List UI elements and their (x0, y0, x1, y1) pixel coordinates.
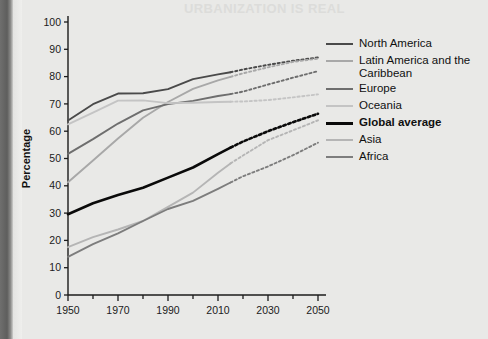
chart-legend: North AmericaLatin America and the Carib… (325, 36, 485, 166)
y-tick-label: 60 (49, 125, 61, 137)
x-tick-label: 1970 (106, 304, 130, 316)
x-tick-label: 2030 (256, 304, 280, 316)
legend-line-swatch-icon (325, 81, 353, 97)
legend-item: Africa (325, 149, 485, 165)
axis-layer (64, 16, 326, 301)
y-tick-label: 50 (49, 152, 61, 164)
legend-item: North America (325, 36, 485, 52)
legend-line-swatch-icon (325, 53, 353, 69)
legend-item: Asia (325, 132, 485, 148)
y-tick-label: 80 (49, 70, 61, 82)
legend-line-swatch-icon (325, 36, 353, 52)
series-line-solid (68, 163, 231, 247)
legend-item: Oceania (325, 98, 485, 114)
legend-item-label: Oceania (359, 98, 402, 112)
y-tick-label: 20 (49, 234, 61, 246)
series-line-projection (231, 120, 319, 163)
series-line-projection (231, 94, 319, 101)
legend-item: Global average (325, 115, 485, 131)
axis-label-layer: 0102030405060708090100195019701990201020… (20, 16, 330, 316)
y-axis-title: Percentage (20, 129, 32, 188)
series-line-projection (231, 114, 319, 148)
legend-line-swatch-icon (325, 115, 353, 131)
legend-line-swatch-icon (325, 98, 353, 114)
x-tick-label: 2050 (306, 304, 330, 316)
series-layer (68, 57, 318, 256)
y-tick-label: 40 (49, 179, 61, 191)
y-tick-label: 30 (49, 207, 61, 219)
y-tick-label: 100 (43, 16, 61, 28)
legend-line-swatch-icon (325, 132, 353, 148)
x-tick-label: 1990 (156, 304, 180, 316)
series-line-solid (68, 183, 231, 257)
legend-item: Europe (325, 81, 485, 97)
legend-line-swatch-icon (325, 149, 353, 165)
legend-item-label: Europe (359, 81, 396, 95)
legend-item-label: Asia (359, 132, 381, 146)
legend-item: Latin America and the Caribbean (325, 53, 485, 80)
series-line-projection (231, 143, 319, 183)
x-tick-label: 1950 (56, 304, 80, 316)
legend-item-label: Latin America and the Caribbean (359, 53, 485, 80)
x-tick-label: 2010 (206, 304, 230, 316)
y-tick-label: 10 (49, 261, 61, 273)
legend-item-label: Africa (359, 149, 388, 163)
legend-item-label: Global average (359, 115, 441, 129)
legend-item-label: North America (359, 36, 432, 50)
y-tick-label: 0 (55, 289, 61, 301)
series-line-solid (68, 148, 231, 215)
y-tick-label: 70 (49, 98, 61, 110)
series-line-projection (231, 71, 319, 94)
y-tick-label: 90 (49, 43, 61, 55)
